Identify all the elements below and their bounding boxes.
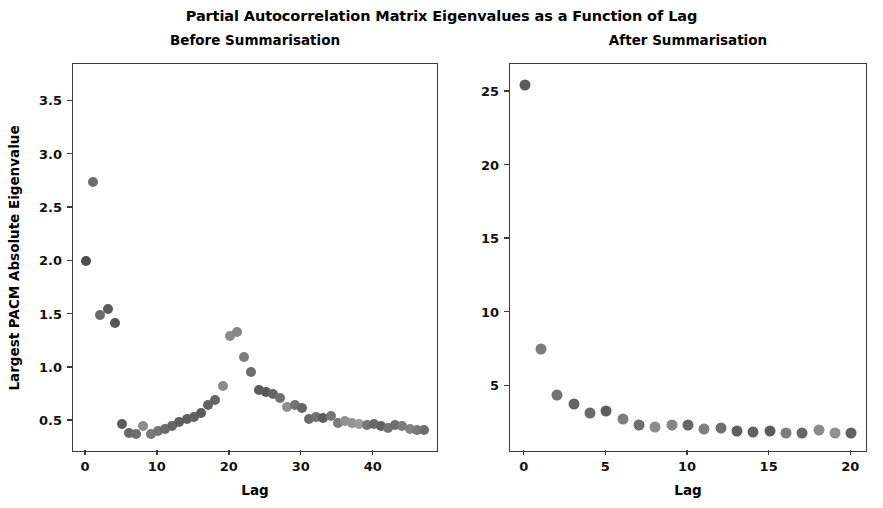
data-point bbox=[103, 304, 113, 314]
y-axis-tick bbox=[67, 100, 72, 101]
x-axis-tick bbox=[523, 450, 524, 455]
y-axis-tick-label: 15 bbox=[447, 231, 499, 246]
subplot-title-before: Before Summarisation bbox=[72, 32, 438, 48]
data-point bbox=[552, 390, 563, 401]
data-point bbox=[764, 426, 775, 437]
figure-canvas: Partial Autocorrelation Matrix Eigenvalu… bbox=[0, 0, 883, 508]
data-point bbox=[232, 327, 242, 337]
data-point bbox=[568, 398, 579, 409]
x-axis-tick bbox=[156, 450, 157, 455]
x-axis-tick bbox=[228, 450, 229, 455]
data-point bbox=[81, 256, 91, 266]
y-axis-tick-label: 0.5 bbox=[10, 413, 62, 428]
y-axis-tick bbox=[504, 90, 509, 91]
y-axis-tick-label: 1.5 bbox=[10, 306, 62, 321]
data-point bbox=[797, 428, 808, 439]
y-axis-tick-label: 5 bbox=[447, 378, 499, 393]
data-point bbox=[419, 425, 429, 435]
data-point bbox=[239, 352, 249, 362]
y-axis-tick bbox=[67, 260, 72, 261]
y-axis-tick bbox=[67, 206, 72, 207]
data-point bbox=[829, 428, 840, 439]
x-axis-tick bbox=[300, 450, 301, 455]
y-axis-tick bbox=[67, 419, 72, 420]
x-axis-tick bbox=[768, 450, 769, 455]
y-axis-tick bbox=[504, 311, 509, 312]
x-axis-tick-label: 0 bbox=[519, 459, 528, 474]
data-point bbox=[780, 427, 791, 438]
data-point bbox=[813, 425, 824, 436]
data-point bbox=[536, 344, 547, 355]
data-point bbox=[519, 79, 530, 90]
y-axis-tick-label: 1.0 bbox=[10, 359, 62, 374]
y-axis-tick-label: 25 bbox=[447, 83, 499, 98]
y-axis-tick-label: 10 bbox=[447, 304, 499, 319]
y-axis-tick-label: 3.0 bbox=[10, 146, 62, 161]
y-axis-tick bbox=[67, 313, 72, 314]
data-point bbox=[210, 395, 220, 405]
subplot-title-after: After Summarisation bbox=[509, 32, 867, 48]
y-axis-tick-label: 20 bbox=[447, 157, 499, 172]
data-point bbox=[731, 426, 742, 437]
x-axis-tick bbox=[372, 450, 373, 455]
x-axis-tick-label: 10 bbox=[678, 459, 696, 474]
scatter-plot-before-summarisation bbox=[72, 63, 438, 452]
data-point bbox=[275, 393, 285, 403]
data-point bbox=[88, 177, 98, 187]
y-axis-tick-label: 2.0 bbox=[10, 253, 62, 268]
x-axis-tick bbox=[84, 450, 85, 455]
data-point bbox=[246, 367, 256, 377]
x-axis-tick-label: 30 bbox=[292, 459, 310, 474]
x-axis-tick-label: 5 bbox=[601, 459, 610, 474]
x-axis-tick-label: 20 bbox=[220, 459, 238, 474]
x-axis-tick bbox=[850, 450, 851, 455]
y-axis-tick-label: 3.5 bbox=[10, 93, 62, 108]
data-point bbox=[110, 318, 120, 328]
figure-suptitle: Partial Autocorrelation Matrix Eigenvalu… bbox=[0, 8, 883, 24]
x-axis-tick bbox=[686, 450, 687, 455]
data-point bbox=[297, 403, 307, 413]
data-point bbox=[601, 406, 612, 417]
y-axis-tick-label: 2.5 bbox=[10, 199, 62, 214]
data-point bbox=[699, 423, 710, 434]
x-axis-label-left: Lag bbox=[241, 482, 268, 498]
data-point bbox=[585, 407, 596, 418]
y-axis-tick bbox=[67, 366, 72, 367]
y-axis-tick bbox=[504, 164, 509, 165]
x-axis-tick-label: 40 bbox=[364, 459, 382, 474]
y-axis-tick bbox=[504, 237, 509, 238]
data-point bbox=[748, 426, 759, 437]
y-axis-tick bbox=[67, 153, 72, 154]
x-axis-tick bbox=[605, 450, 606, 455]
data-point bbox=[666, 419, 677, 430]
x-axis-tick-label: 10 bbox=[148, 459, 166, 474]
scatter-plot-after-summarisation bbox=[509, 63, 867, 452]
data-point bbox=[846, 427, 857, 438]
y-axis-tick bbox=[504, 385, 509, 386]
data-point bbox=[715, 423, 726, 434]
data-point bbox=[650, 422, 661, 433]
data-point bbox=[634, 419, 645, 430]
x-axis-label-right: Lag bbox=[674, 482, 701, 498]
x-axis-tick-label: 0 bbox=[80, 459, 89, 474]
data-point bbox=[617, 413, 628, 424]
data-point bbox=[218, 381, 228, 391]
x-axis-tick-label: 20 bbox=[841, 459, 859, 474]
x-axis-tick-label: 15 bbox=[760, 459, 778, 474]
data-point bbox=[683, 420, 694, 431]
